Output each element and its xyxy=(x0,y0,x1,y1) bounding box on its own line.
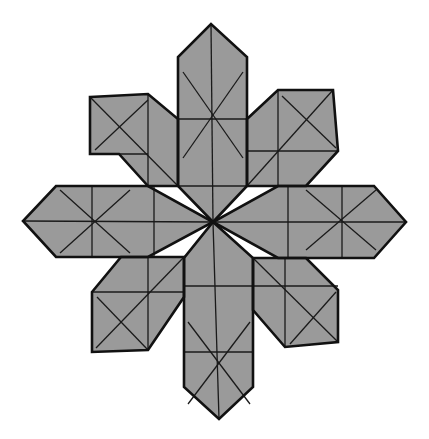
star-figure xyxy=(0,0,429,439)
